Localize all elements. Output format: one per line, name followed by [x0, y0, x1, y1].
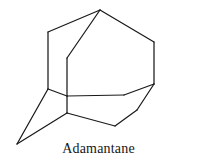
bond-edge-group [17, 10, 154, 144]
bond-line-v_left_mid-to-v_front_cross [48, 89, 67, 96]
bond-line-v_bottom_mid-to-v_low_right [115, 110, 137, 126]
bond-line-v_left_mid-to-v_bottom_left [17, 89, 48, 144]
figure-caption: Adamantane [0, 140, 197, 158]
bond-line-v_apex-to-v_up_right [100, 10, 154, 42]
bond-line-v_front_cross-to-v_mid_right [67, 95, 124, 96]
bond-line-v_low_right-to-v_right_mid [137, 84, 154, 110]
bond-line-v_front_low-to-v_bottom_mid [67, 113, 115, 126]
adamantane-figure: Adamantane [0, 0, 197, 164]
bond-line-v_mid_right-to-v_right_mid [124, 84, 154, 95]
